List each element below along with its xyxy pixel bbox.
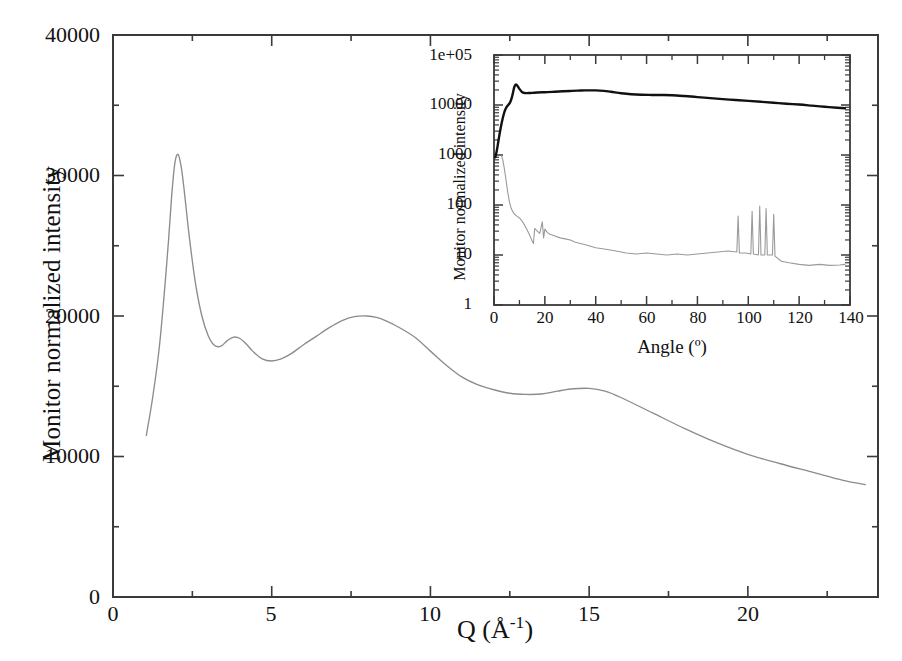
figure-canvas: Monitor normalized intensity Q (Å-1) 400… xyxy=(0,0,902,661)
plot-vector-layer xyxy=(0,0,902,661)
